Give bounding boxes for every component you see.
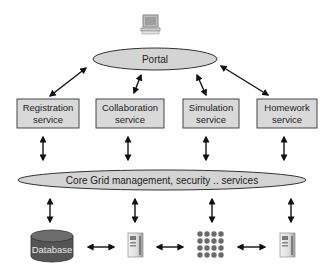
portal-label: Portal [142,54,168,65]
core-label: Core Grid management, security .. servic… [66,175,258,186]
service-sublabel: service [272,114,302,125]
service-sublabel: service [115,114,145,125]
service-homework: Homework service [257,99,317,128]
portal-service-arrows [50,66,268,96]
portal-node: Portal [93,48,217,70]
database-icon: Database [31,230,73,262]
service-simulation: Simulation service [183,99,239,128]
core-resource-arrows [50,199,291,222]
service-label: Registration [23,102,74,113]
service-label: Homework [264,102,310,113]
server-tower-icon [128,233,143,257]
database-label: Database [32,244,73,255]
grid-architecture-diagram: Portal Registration service Collaboratio… [0,0,330,274]
service-label: Collaboration [102,102,158,113]
service-collaboration: Collaboration service [96,99,164,128]
service-sublabel: service [196,114,226,125]
server-tower-icon [280,233,295,257]
core-grid-services-node: Core Grid management, security .. servic… [18,170,306,190]
desktop-computer-icon [141,15,160,34]
service-sublabel: service [33,114,63,125]
service-label: Simulation [189,102,233,113]
compute-cluster-icon [197,231,223,257]
service-core-arrows [43,137,284,160]
service-registration: Registration service [17,99,79,128]
